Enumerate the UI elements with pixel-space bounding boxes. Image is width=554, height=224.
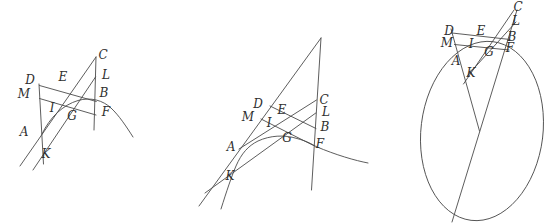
- conic-arc: [221, 136, 368, 209]
- point-label-I: I: [468, 37, 474, 51]
- point-label-K: K: [225, 169, 236, 183]
- point-label-E: E: [277, 103, 287, 117]
- point-label-F: F: [505, 41, 515, 55]
- point-label-G: G: [484, 45, 494, 59]
- point-label-D: D: [24, 73, 35, 87]
- line-KL: [205, 113, 316, 193]
- point-label-B: B: [99, 86, 109, 100]
- diagram-canvas: DMAKEIGCLBFDMEIGAKCLBFDMEIGAKCLBF: [0, 0, 554, 224]
- point-label-M: M: [440, 36, 454, 50]
- line-CLBF: [312, 38, 322, 190]
- point-label-M: M: [241, 110, 255, 124]
- point-label-C: C: [513, 0, 522, 14]
- point-label-K: K: [466, 66, 477, 80]
- point-label-K: K: [41, 147, 52, 161]
- point-label-I: I: [49, 101, 55, 115]
- point-label-E: E: [476, 24, 486, 38]
- conic-ellipse: [410, 34, 553, 224]
- point-label-G: G: [67, 109, 77, 123]
- point-label-L: L: [321, 105, 330, 119]
- conic-arc: [42, 99, 133, 137]
- point-label-A: A: [226, 140, 236, 154]
- point-label-D: D: [252, 97, 263, 111]
- point-label-M: M: [17, 87, 31, 101]
- figure-ellipse-case: DMEIGAKCLBF: [410, 0, 553, 224]
- point-label-L: L: [101, 68, 110, 82]
- point-label-A: A: [451, 54, 461, 68]
- point-label-C: C: [98, 48, 107, 62]
- point-label-F: F: [101, 105, 111, 119]
- point-label-I: I: [266, 116, 272, 130]
- point-label-G: G: [282, 131, 292, 145]
- point-label-L: L: [511, 14, 520, 28]
- figure-hyperbola-case: DMEIGAKCLBF: [199, 38, 368, 209]
- scanned-geometry-page: DMAKEIGCLBFDMEIGAKCLBFDMEIGAKCLBF: [0, 0, 554, 224]
- point-label-F: F: [315, 137, 325, 151]
- figure-parabola-case: DMAKEIGCLBF: [17, 48, 133, 170]
- point-label-E: E: [58, 70, 68, 84]
- line-CLBF: [94, 57, 96, 130]
- point-label-B: B: [320, 120, 330, 134]
- point-label-A: A: [19, 125, 29, 139]
